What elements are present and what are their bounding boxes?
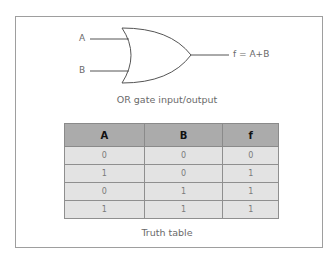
truth-table: A B f 0 0 0 1 0 1 0 1 1 1 1 1 [64, 123, 279, 219]
header-f: f [223, 124, 279, 147]
cell: 0 [223, 147, 279, 165]
cell: 1 [223, 165, 279, 183]
or-gate-symbol [122, 28, 191, 83]
header-a: A [65, 124, 145, 147]
cell: 1 [223, 183, 279, 201]
cell: 1 [223, 201, 279, 219]
cell: 1 [144, 201, 223, 219]
table-header-row: A B f [65, 124, 279, 147]
cell: 1 [65, 165, 145, 183]
table-row: 0 0 0 [65, 147, 279, 165]
table-row: 0 1 1 [65, 183, 279, 201]
input-b-label: B [79, 65, 85, 75]
diagram-caption: OR gate input/output [0, 94, 334, 105]
cell: 0 [144, 147, 223, 165]
cell: 0 [65, 147, 145, 165]
header-b: B [144, 124, 223, 147]
cell: 1 [144, 183, 223, 201]
table-row: 1 0 1 [65, 165, 279, 183]
input-a-label: A [79, 33, 85, 43]
cell: 1 [65, 201, 145, 219]
table-caption: Truth table [0, 227, 334, 238]
cell: 0 [65, 183, 145, 201]
cell: 0 [144, 165, 223, 183]
output-label: f = A+B [233, 49, 269, 59]
table-row: 1 1 1 [65, 201, 279, 219]
